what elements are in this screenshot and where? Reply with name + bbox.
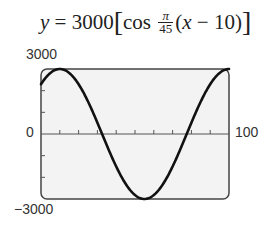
plot-area [0,0,275,234]
